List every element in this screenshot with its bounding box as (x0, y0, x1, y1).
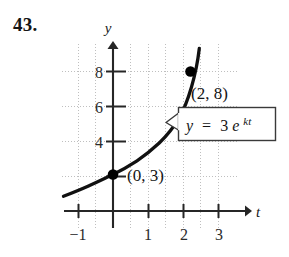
x-tick-label-2: 2 (180, 226, 188, 243)
point-label-0-3: (0, 3) (127, 166, 164, 185)
point-label-2-8: (2, 8) (191, 84, 228, 103)
equation-base: e (232, 117, 239, 134)
x-axis-label: t (256, 204, 261, 220)
equation-operator: = (202, 117, 211, 134)
equation-callout: y = 3 e kt (166, 108, 276, 141)
y-tick-label-4: 4 (95, 134, 103, 151)
exercise-figure: 43. (0, 0, 289, 257)
x-tick-label-neg1: −1 (69, 226, 86, 243)
equation-exponent: kt (243, 115, 252, 127)
y-tick-label-8: 8 (95, 64, 103, 81)
data-point-marker (108, 169, 119, 180)
y-axis-ticks (106, 72, 126, 177)
data-point-marker (185, 66, 196, 77)
y-axis-arrowhead (108, 41, 119, 49)
x-tick-label-3: 3 (215, 226, 223, 243)
y-axis-label: y (103, 20, 112, 36)
x-axis-arrowhead (245, 206, 252, 217)
y-tick-label-6: 6 (95, 99, 103, 116)
equation-lhs: y (184, 117, 194, 135)
x-tick-label-1: 1 (144, 226, 152, 243)
equation-coefficient: 3 (220, 117, 228, 134)
coordinate-plot: y t −1 1 2 3 8 6 4 (2, 8) (0, 3) y = (0, 0, 289, 257)
